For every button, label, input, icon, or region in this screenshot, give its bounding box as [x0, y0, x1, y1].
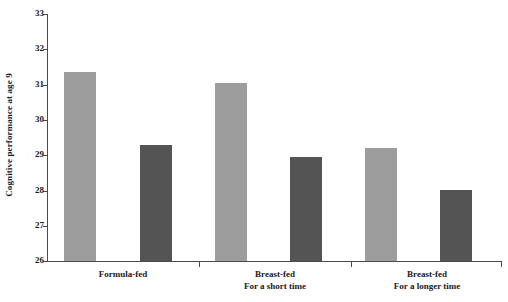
x-axis-label-line2: For a short time	[199, 280, 351, 292]
y-tick-label: 27	[35, 219, 44, 232]
bar-breast-fed-short-dark	[290, 157, 322, 261]
bar-formula-fed-dark	[140, 145, 172, 261]
x-axis-label-formula-fed: Formula-fed	[47, 268, 199, 280]
bar-chart: Cognitive performance at age 9 33 32 31 …	[0, 0, 508, 302]
y-axis-title: Cognitive performance at age 9	[0, 0, 18, 270]
y-tick-label: 30	[35, 113, 44, 126]
x-axis-label-breast-fed-longer: Breast-fed For a longer time	[351, 268, 503, 292]
y-axis-title-text: Cognitive performance at age 9	[4, 73, 14, 196]
x-axis-label-line1: Formula-fed	[99, 269, 148, 279]
bar-breast-fed-longer-dark	[440, 190, 472, 261]
x-axis-line	[47, 261, 502, 262]
plot-area: 33 32 31 30 29 28 27 26	[47, 14, 502, 262]
bar-breast-fed-longer-light	[365, 148, 397, 261]
y-axis-line	[47, 14, 48, 262]
x-axis-label-line2: For a longer time	[351, 280, 503, 292]
y-tick-label: 31	[35, 78, 44, 91]
y-tick-label: 28	[35, 184, 44, 197]
x-axis-group-separator	[501, 262, 502, 267]
y-tick-label: 26	[35, 254, 44, 267]
y-tick-label: 29	[35, 148, 44, 161]
x-axis-group-separator	[351, 262, 352, 267]
x-axis-label-breast-fed-short: Breast-fed For a short time	[199, 268, 351, 292]
y-tick-label: 33	[35, 7, 44, 20]
x-axis-group-separator	[199, 262, 200, 267]
x-axis-label-line1: Breast-fed	[407, 269, 447, 279]
bar-formula-fed-light	[64, 72, 96, 261]
y-tick-label: 32	[35, 42, 44, 55]
x-axis-label-line1: Breast-fed	[255, 269, 295, 279]
bar-breast-fed-short-light	[215, 83, 247, 261]
